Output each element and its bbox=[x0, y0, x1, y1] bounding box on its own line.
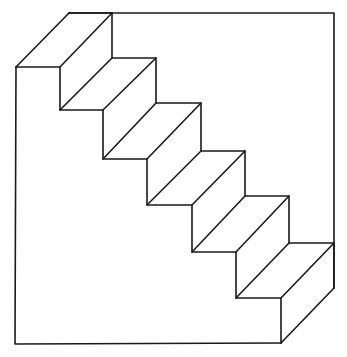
staircase-drawing bbox=[0, 0, 347, 357]
front-step-profile bbox=[16, 67, 281, 343]
depth-edges bbox=[16, 13, 334, 343]
depth-edge bbox=[60, 58, 112, 110]
depth-edge bbox=[192, 151, 245, 205]
staircase-figure bbox=[0, 0, 347, 357]
depth-edge bbox=[281, 288, 334, 343]
depth-edge bbox=[16, 13, 69, 67]
depth-edge bbox=[147, 151, 201, 205]
front-profile-line bbox=[16, 67, 281, 343]
depth-edge bbox=[103, 103, 156, 159]
depth-edge bbox=[60, 13, 112, 67]
depth-edge bbox=[192, 196, 245, 252]
depth-edge bbox=[236, 243, 289, 298]
depth-edge bbox=[281, 243, 334, 298]
depth-edge bbox=[147, 103, 201, 159]
depth-edge bbox=[103, 58, 156, 110]
depth-edge bbox=[236, 196, 289, 252]
